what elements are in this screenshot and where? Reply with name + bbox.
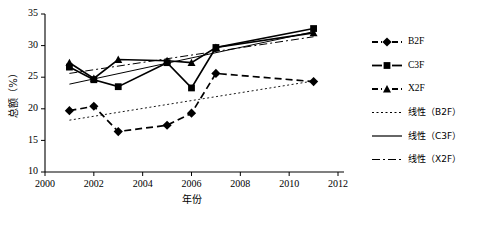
legend: B2FC3FX2F线性（B2F）线性（C3F）线性（X2F） <box>372 36 461 164</box>
x-tick-label: 2006 <box>182 178 202 189</box>
legend-item-线性（B2F）: 线性（B2F） <box>372 106 461 117</box>
marker-diamond <box>382 37 391 46</box>
x-tick-label: 2000 <box>35 178 55 189</box>
legend-item-C3F: C3F <box>372 60 424 70</box>
legend-item-X2F: X2F <box>372 83 425 93</box>
series-B2F <box>65 69 318 136</box>
marker-triangle <box>65 59 73 66</box>
legend-label: 线性（X2F） <box>408 153 461 164</box>
legend-label: 线性（B2F） <box>408 106 461 117</box>
legend-label: 线性（C3F） <box>408 130 461 141</box>
y-tick-label: 35 <box>28 7 38 18</box>
x-tick-label: 2010 <box>279 178 299 189</box>
chart-canvas: 1015202530352000200220042006200820102012… <box>0 0 495 227</box>
marker-diamond <box>211 69 220 78</box>
y-axis-title: 总额（%） <box>7 68 19 118</box>
legend-item-线性（C3F）: 线性（C3F） <box>372 130 461 141</box>
x-axis-title: 年份 <box>182 193 202 205</box>
marker-diamond <box>65 106 74 115</box>
x-tick-label: 2008 <box>230 178 250 189</box>
chart-figure: 1015202530352000200220042006200820102012… <box>0 0 495 227</box>
y-tick-label: 30 <box>28 39 38 50</box>
y-tick-label: 20 <box>28 102 38 113</box>
marker-diamond <box>187 109 196 118</box>
legend-item-线性（X2F）: 线性（X2F） <box>372 153 461 164</box>
y-tick-label: 10 <box>28 165 38 176</box>
marker-square <box>188 85 195 92</box>
legend-label: C3F <box>408 60 424 70</box>
marker-square <box>384 62 391 69</box>
marker-diamond <box>89 102 98 111</box>
x-tick-label: 2004 <box>133 178 153 189</box>
line-chart-plot: 1015202530352000200220042006200820102012… <box>0 0 495 227</box>
legend-label: X2F <box>408 83 425 93</box>
series-line-B2F <box>69 73 313 131</box>
x-tick-label: 2002 <box>84 178 104 189</box>
legend-label: B2F <box>408 36 424 46</box>
marker-diamond <box>162 121 171 130</box>
marker-square <box>115 83 122 90</box>
trendline-1 <box>69 32 313 84</box>
marker-diamond <box>309 77 318 86</box>
x-tick-label: 2012 <box>328 178 348 189</box>
marker-triangle <box>383 85 391 92</box>
legend-item-B2F: B2F <box>372 36 424 46</box>
y-tick-label: 15 <box>28 134 38 145</box>
y-tick-label: 25 <box>28 70 38 81</box>
